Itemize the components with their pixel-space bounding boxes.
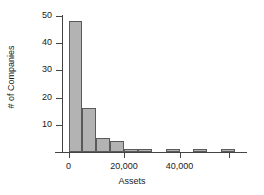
y-tick-label: 20: [0, 93, 52, 102]
histogram-bar: [138, 149, 152, 152]
y-tick-label: 40: [0, 38, 52, 47]
x-tick-label: 0: [66, 161, 71, 171]
x-tick-label: 40,000: [166, 161, 194, 171]
histogram-bar: [221, 149, 235, 152]
plot-area: [63, 16, 235, 152]
histogram-bar: [124, 149, 138, 152]
y-tick-label: 30: [0, 65, 52, 74]
x-tick-mark: [180, 152, 181, 158]
x-axis-title: Assets: [0, 176, 264, 186]
x-axis-line: [55, 152, 247, 153]
x-tick-mark: [229, 152, 230, 158]
histogram-bar: [82, 108, 96, 152]
x-tick-mark: [69, 152, 70, 158]
histogram-figure: # of Companies 1020304050 020,00040,000 …: [0, 0, 264, 195]
y-tick-mark: [56, 43, 63, 44]
y-tick-label: 10: [0, 120, 52, 129]
y-tick-mark: [56, 125, 63, 126]
histogram-bar: [193, 149, 207, 152]
y-tick-label: 50: [0, 11, 52, 20]
histogram-bar: [110, 141, 124, 152]
y-tick-mark: [56, 70, 63, 71]
y-tick-mark: [56, 16, 63, 17]
x-tick-mark: [124, 152, 125, 158]
histogram-bar: [166, 149, 180, 152]
histogram-bar: [69, 21, 83, 152]
x-tick-label: 20,000: [110, 161, 138, 171]
histogram-bar: [96, 138, 110, 152]
y-tick-mark: [56, 98, 63, 99]
